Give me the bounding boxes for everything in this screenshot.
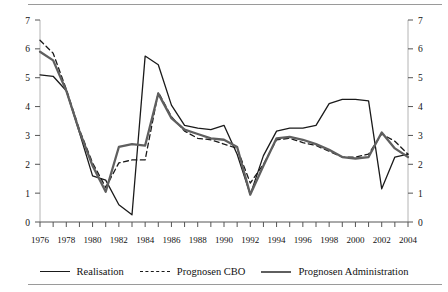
y-tick-label-right: 7 bbox=[418, 16, 423, 26]
y-tick-label-right: 1 bbox=[418, 189, 423, 199]
figure-container: 0011223344556677197619781980198219841986… bbox=[0, 0, 448, 292]
x-tick-label: 1994 bbox=[268, 235, 287, 245]
x-tick-label: 2004 bbox=[399, 235, 418, 245]
figure-top-divider bbox=[28, 4, 442, 5]
y-tick-label-right: 4 bbox=[418, 102, 423, 112]
y-tick-label-left: 3 bbox=[25, 131, 30, 141]
x-tick-label: 1980 bbox=[84, 235, 103, 245]
y-tick-label-right: 5 bbox=[418, 73, 423, 83]
x-tick-label: 1988 bbox=[189, 235, 208, 245]
series-line-prognosen-cbo bbox=[40, 40, 408, 187]
x-tick-label: 2000 bbox=[346, 235, 365, 245]
legend-item-label: Prognosen CBO bbox=[177, 266, 246, 277]
y-tick-label-right: 3 bbox=[418, 131, 423, 141]
y-tick-label-left: 6 bbox=[25, 44, 30, 54]
x-tick-label: 1990 bbox=[215, 235, 234, 245]
x-tick-label: 1984 bbox=[136, 235, 155, 245]
x-tick-label: 1982 bbox=[110, 235, 128, 245]
y-tick-label-left: 4 bbox=[25, 102, 30, 112]
y-tick-label-right: 6 bbox=[418, 44, 423, 54]
x-tick-label: 1996 bbox=[294, 235, 313, 245]
legend-item: Prognosen Administration bbox=[261, 266, 408, 277]
chart-legend: RealisationPrognosen CBOPrognosen Admini… bbox=[0, 262, 448, 280]
legend-item: Prognosen CBO bbox=[140, 266, 246, 277]
figure-bottom-divider bbox=[28, 284, 442, 285]
x-tick-label: 1992 bbox=[241, 235, 259, 245]
y-tick-label-right: 0 bbox=[418, 218, 423, 228]
series-line-prognosen-administration bbox=[40, 52, 408, 195]
x-tick-label: 1998 bbox=[320, 235, 339, 245]
line-chart-plot: 0011223344556677197619781980198219841986… bbox=[0, 0, 448, 260]
y-tick-label-left: 7 bbox=[25, 16, 30, 26]
legend-item-label: Prognosen Administration bbox=[298, 266, 408, 277]
y-tick-label-left: 1 bbox=[25, 189, 30, 199]
y-tick-label-left: 2 bbox=[25, 160, 30, 170]
x-tick-label: 2002 bbox=[373, 235, 391, 245]
line-solid-icon bbox=[40, 266, 70, 276]
y-tick-label-left: 5 bbox=[25, 73, 30, 83]
y-tick-label-right: 2 bbox=[418, 160, 423, 170]
line-dashed-icon bbox=[140, 266, 170, 276]
x-tick-label: 1986 bbox=[162, 235, 181, 245]
legend-item: Realisation bbox=[40, 266, 124, 277]
y-tick-label-left: 0 bbox=[25, 218, 30, 228]
x-tick-label: 1978 bbox=[57, 235, 76, 245]
x-tick-label: 1976 bbox=[31, 235, 50, 245]
line-thick-icon bbox=[261, 266, 291, 276]
legend-item-label: Realisation bbox=[77, 266, 124, 277]
series-line-realisation bbox=[40, 56, 408, 215]
